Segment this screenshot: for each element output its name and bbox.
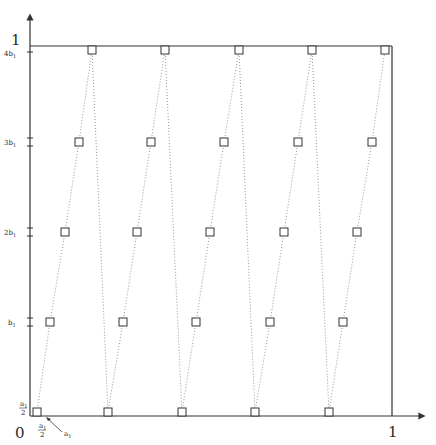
x-axis-one-label: 1 — [388, 423, 398, 441]
dotted-segment — [284, 142, 298, 232]
dotted-segment — [312, 50, 329, 412]
dotted-segment — [298, 50, 312, 142]
a1-pointer: a1 — [46, 417, 71, 439]
square-marker — [220, 138, 228, 146]
dotted-segment — [79, 50, 92, 142]
square-marker — [61, 228, 69, 236]
dotted-segment — [357, 142, 372, 232]
dotted-segment — [255, 322, 270, 412]
square-marker — [325, 408, 333, 416]
y-label-a1-half: a1 2 — [19, 400, 27, 417]
square-marker — [147, 138, 155, 146]
square-marker — [161, 46, 169, 54]
dotted-segment — [224, 50, 239, 142]
square-marker — [206, 228, 214, 236]
square-marker — [46, 318, 54, 326]
dotted-segment — [239, 50, 255, 412]
svg-text:a1: a1 — [20, 400, 27, 409]
dotted-segment — [182, 322, 196, 412]
svg-text:2: 2 — [21, 409, 25, 417]
square-marker — [235, 46, 243, 54]
dotted-segment — [329, 322, 343, 412]
dotted-segment — [270, 232, 284, 322]
dotted-segment — [108, 322, 123, 412]
dotted-segment — [137, 142, 151, 232]
y-label-4b1: 4b1 — [4, 50, 16, 59]
sawtooth-diagram: 1 4b1 3b1 2b1 b1 a1 2 0 a1 2 a1 1 — [0, 0, 436, 445]
square-marker — [33, 408, 41, 416]
origin-label: 0 — [15, 424, 25, 442]
dotted-segment — [151, 50, 165, 142]
square-marker — [280, 228, 288, 236]
square-marker — [178, 408, 186, 416]
svg-text:2: 2 — [40, 431, 44, 439]
square-marker — [294, 138, 302, 146]
svg-text:a1: a1 — [39, 422, 46, 431]
square-marker — [339, 318, 347, 326]
dotted-segment — [123, 232, 137, 322]
square-marker — [266, 318, 274, 326]
dotted-segment — [165, 50, 182, 412]
dotted-segment — [210, 142, 224, 232]
square-marker — [104, 408, 112, 416]
square-marker — [368, 138, 376, 146]
dotted-segment — [65, 142, 79, 232]
dotted-segment — [343, 232, 357, 322]
dotted-segment — [50, 232, 65, 322]
y-label-3b1: 3b1 — [4, 139, 16, 148]
square-marker — [192, 318, 200, 326]
square-marker — [381, 46, 389, 54]
x-label-a1-half: a1 2 — [38, 422, 46, 439]
square-markers — [33, 46, 389, 416]
square-marker — [308, 46, 316, 54]
y-axis-one-label: 1 — [11, 31, 21, 49]
square-marker — [88, 46, 96, 54]
square-marker — [251, 408, 259, 416]
y-label-b1: b1 — [8, 319, 16, 328]
square-marker — [353, 228, 361, 236]
svg-text:a1: a1 — [64, 430, 71, 439]
square-marker — [119, 318, 127, 326]
dotted-segment — [372, 50, 385, 142]
square-marker — [133, 228, 141, 236]
dotted-segment — [196, 232, 210, 322]
square-marker — [75, 138, 83, 146]
dotted-segment — [37, 322, 50, 412]
diagram-canvas: 1 4b1 3b1 2b1 b1 a1 2 0 a1 2 a1 1 — [0, 0, 436, 445]
dotted-segment — [92, 50, 108, 412]
y-label-2b1: 2b1 — [4, 229, 16, 238]
